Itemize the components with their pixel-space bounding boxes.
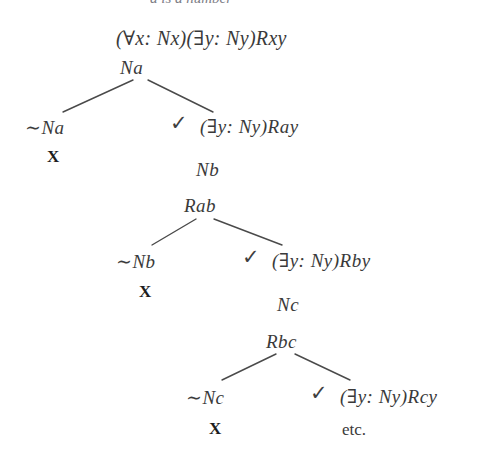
branch-closure-mark: X [139, 283, 151, 300]
tree-node-exists-rby: (∃y: Ny)Rby [272, 251, 371, 270]
truth-tree-figure: a is a number (∀x: Nx)(∃y: Ny)RxyNa∼Na✓(… [0, 0, 502, 464]
branch-line [214, 219, 282, 245]
cropped-header-text: a is a number [150, 0, 232, 6]
tree-node-not-na: ∼Na [25, 118, 65, 137]
tree-node-root: (∀x: Nx)(∃y: Ny)Rxy [116, 28, 287, 48]
tree-node-nc: Nc [277, 295, 299, 314]
branch-line [63, 80, 133, 112]
tree-node-na: Na [120, 58, 143, 77]
check-mark-icon: ✓ [242, 247, 260, 268]
branch-line [152, 219, 196, 245]
check-mark-icon: ✓ [170, 113, 188, 134]
tree-node-exists-rcy: (∃y: Ny)Rcy [340, 387, 438, 406]
branch-closure-mark: X [209, 420, 221, 437]
branch-line [222, 354, 276, 380]
branch-line [295, 354, 350, 380]
check-mark-icon: ✓ [310, 383, 328, 404]
tree-node-rbc: Rbc [266, 332, 297, 351]
branch-line [148, 80, 213, 112]
tree-node-nb: Nb [196, 160, 219, 179]
continuation-label: etc. [342, 421, 366, 438]
branch-closure-mark: X [47, 148, 59, 165]
tree-node-rab: Rab [184, 196, 216, 215]
tree-node-not-nc: ∼Nc [186, 388, 225, 407]
tree-node-exists-ray: (∃y: Ny)Ray [200, 117, 299, 136]
tree-node-not-nb: ∼Nb [116, 252, 156, 271]
